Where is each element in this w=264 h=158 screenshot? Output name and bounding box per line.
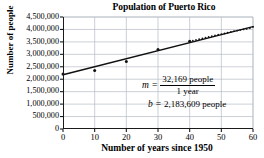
plot-area	[63, 17, 253, 129]
chart-figure: Population of Puerto Rico Number of peop…	[0, 0, 264, 158]
slope-fraction: 32,169 people 1 year	[160, 74, 215, 96]
slope-numerator: 32,169 people	[160, 74, 215, 86]
equation-annotation: m = 32,169 people 1 year b = 2,183,609 p…	[136, 74, 254, 109]
intercept-value: 2,183,609 people	[164, 99, 226, 109]
intercept-equation: b = 2,183,609 people	[148, 99, 254, 109]
slope-variable: m	[142, 80, 152, 90]
slope-denominator: 1 year	[160, 86, 215, 97]
intercept-variable: b	[148, 99, 156, 109]
slope-equation: m = 32,169 people 1 year	[142, 74, 254, 96]
slope-equals-sign: =	[152, 80, 160, 90]
intercept-equals-sign: =	[156, 99, 164, 109]
